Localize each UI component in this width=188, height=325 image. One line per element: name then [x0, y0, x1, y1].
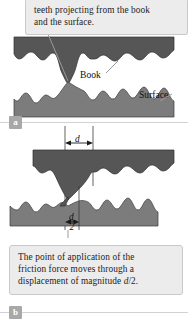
- callout-a-line-1: teeth projecting from the book: [34, 4, 180, 16]
- callout-panel-a: teeth projecting from the book and the s…: [25, 0, 188, 35]
- dimension-d-numerator: d: [69, 212, 74, 222]
- callout-b-line-2: friction force moves through a: [18, 263, 175, 275]
- book-label: Book: [80, 69, 101, 80]
- figure-stage: Book Surface d d 2: [0, 0, 188, 325]
- callout-b-line-3-text: displacement of magnitude: [18, 276, 124, 286]
- book-body-displaced: [33, 150, 174, 200]
- callout-b-math-rest: /2.: [128, 276, 138, 286]
- callout-b-line-3: displacement of magnitude d/2.: [18, 275, 175, 287]
- dimension-d-denominator: 2: [70, 222, 75, 232]
- panel-a-badge: a: [9, 116, 22, 129]
- book-leader: [106, 61, 118, 73]
- dimension-d-label: d: [75, 134, 80, 144]
- surface-body-displaced: [10, 198, 158, 226]
- panel-b-divider: [0, 312, 188, 313]
- panel-b-diagram: d d 2: [0, 126, 188, 238]
- panel-b-badge: b: [9, 306, 22, 319]
- callout-b-line-1: The point of application of the: [18, 251, 175, 263]
- dimension-d: d: [65, 134, 93, 146]
- panel-a-divider: [0, 122, 188, 123]
- callout-a-line-2: and the surface.: [34, 16, 180, 28]
- callout-panel-b: The point of application of the friction…: [9, 245, 183, 295]
- panel-a-diagram: Book Surface: [0, 33, 188, 121]
